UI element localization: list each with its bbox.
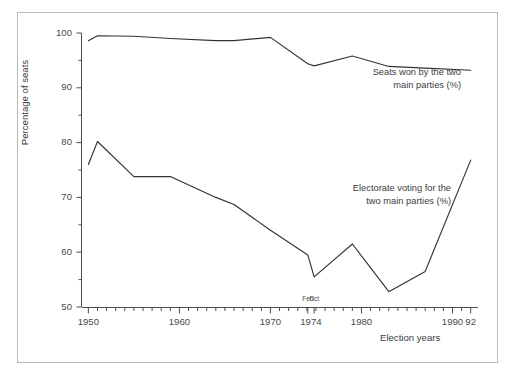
x-tick-label: 1960 bbox=[159, 316, 199, 327]
x-tick-label: 1950 bbox=[68, 316, 108, 327]
y-axis-label: Percentage of seats bbox=[19, 48, 30, 158]
y-tick-label: 80 bbox=[46, 136, 72, 147]
x-axis-ticks bbox=[88, 308, 470, 314]
y-tick-label: 50 bbox=[46, 301, 72, 312]
x-sub-tick-label: Oct bbox=[303, 295, 325, 302]
chart-figure: Percentage of seats Election years 10090… bbox=[0, 0, 516, 378]
x-tick-label: 1970 bbox=[250, 316, 290, 327]
annotation-seats-series: Seats won by the two main parties (%) bbox=[333, 66, 461, 91]
y-axis-ticks bbox=[77, 33, 82, 307]
x-axis-label: Election years bbox=[380, 332, 440, 343]
x-tick-label: 92 bbox=[451, 316, 491, 327]
y-tick-label: 100 bbox=[46, 27, 72, 38]
y-tick-label: 70 bbox=[46, 191, 72, 202]
annotation-electorate-series: Electorate voting for the two main parti… bbox=[315, 182, 451, 207]
x-tick-label: 1974 bbox=[291, 316, 331, 327]
series-line-electorate bbox=[88, 142, 470, 292]
y-tick-label: 90 bbox=[46, 81, 72, 92]
x-tick-label: 1980 bbox=[341, 316, 381, 327]
y-tick-label: 60 bbox=[46, 246, 72, 257]
